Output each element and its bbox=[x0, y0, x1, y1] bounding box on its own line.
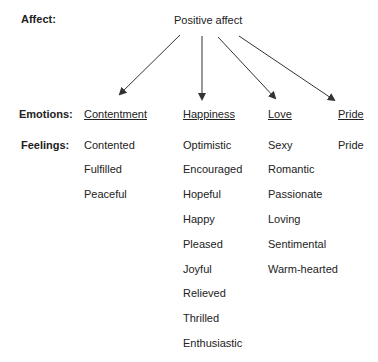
feeling: Joyful bbox=[183, 263, 212, 276]
root-node: Positive affect bbox=[174, 14, 242, 27]
feeling: Optimistic bbox=[183, 139, 231, 152]
emotion-pride: Pride bbox=[338, 108, 364, 121]
feeling: Happy bbox=[183, 213, 215, 226]
feeling: Sexy bbox=[268, 139, 292, 152]
feeling: Loving bbox=[268, 213, 300, 226]
feeling: Sentimental bbox=[268, 238, 326, 251]
emotions-label: Emotions: bbox=[19, 108, 73, 121]
arrows bbox=[0, 0, 378, 362]
feeling: Hopeful bbox=[183, 188, 221, 201]
feeling: Fulfilled bbox=[84, 163, 122, 176]
feeling: Passionate bbox=[268, 188, 322, 201]
feeling: Warm-hearted bbox=[268, 263, 338, 276]
arrow-to-contentment bbox=[120, 35, 180, 94]
arrow-to-love bbox=[218, 37, 275, 98]
emotion-contentment: Contentment bbox=[84, 108, 147, 121]
feeling: Romantic bbox=[268, 163, 314, 176]
emotion-love: Love bbox=[268, 108, 292, 121]
emotion-happiness: Happiness bbox=[183, 108, 235, 121]
feeling: Encouraged bbox=[183, 163, 242, 176]
feeling: Peaceful bbox=[84, 188, 127, 201]
feeling: Relieved bbox=[183, 287, 226, 300]
feeling: Thrilled bbox=[183, 312, 219, 325]
feeling: Contented bbox=[84, 139, 135, 152]
affect-label: Affect: bbox=[21, 13, 56, 26]
feeling: Pride bbox=[338, 139, 364, 152]
arrow-to-pride bbox=[239, 36, 334, 100]
feelings-label: Feelings: bbox=[21, 139, 69, 152]
feeling: Pleased bbox=[183, 238, 223, 251]
feeling: Enthusiastic bbox=[183, 337, 242, 350]
